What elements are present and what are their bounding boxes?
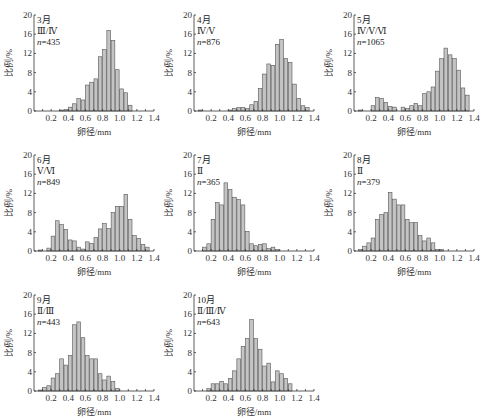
- bar: [263, 74, 267, 111]
- bars: [38, 194, 149, 251]
- bar: [224, 384, 228, 391]
- stage-label: Ⅳ/Ⅴ/Ⅵ: [357, 26, 387, 36]
- bar: [207, 244, 211, 251]
- bar: [120, 89, 124, 111]
- bar: [51, 378, 55, 391]
- bar: [440, 59, 444, 111]
- bar: [111, 40, 115, 111]
- bar: [77, 322, 81, 391]
- x-tick-label: 0.8: [97, 253, 109, 263]
- n-value: =876: [202, 37, 221, 47]
- x-tick-label: 1.0: [114, 393, 126, 403]
- bar: [393, 199, 397, 251]
- bar: [297, 99, 301, 111]
- x-axis-title: 卵径/mm: [77, 126, 112, 137]
- histogram-svg: 0481216200.20.40.60.81.01.21.4卵径/mm比例/%4…: [160, 0, 320, 140]
- histogram-svg: 0481216200.20.40.60.81.01.21.4卵径/mm比例/%7…: [160, 140, 320, 280]
- x-tick-label: 1.4: [468, 113, 480, 123]
- y-tick-label: 4: [28, 87, 33, 97]
- y-tick-label: 8: [28, 68, 33, 78]
- bar: [388, 192, 392, 251]
- bar: [380, 99, 384, 111]
- x-tick-label: 0.6: [80, 393, 92, 403]
- y-tick-label: 8: [28, 208, 33, 218]
- y-tick-label: 4: [348, 87, 353, 97]
- sample-size-label: n=435: [37, 37, 61, 47]
- bars: [38, 322, 119, 391]
- sample-size-label: n=1065: [357, 37, 385, 47]
- bar: [258, 349, 262, 391]
- bar: [90, 359, 94, 391]
- x-axis-title: 卵径/mm: [397, 266, 432, 277]
- x-tick-label: 0.6: [240, 393, 252, 403]
- bar: [133, 236, 137, 251]
- bar: [367, 243, 371, 251]
- bar: [215, 384, 219, 391]
- x-tick-label: 0.8: [257, 113, 269, 123]
- x-tick-label: 0.4: [63, 113, 75, 123]
- x-tick-label: 1.4: [148, 113, 160, 123]
- y-tick-label: 4: [28, 367, 33, 377]
- sample-size-label: n=876: [197, 37, 221, 47]
- bar: [410, 106, 414, 111]
- y-tick-label: 0: [28, 246, 33, 256]
- month-label: 9月: [37, 295, 51, 305]
- month-label: 6月: [37, 155, 51, 165]
- bar: [124, 194, 128, 251]
- y-tick-label: 0: [348, 246, 353, 256]
- x-tick-label: 1.2: [291, 393, 302, 403]
- histogram-svg: 0481216200.20.40.60.81.01.21.4卵径/mm比例/%9…: [0, 280, 160, 420]
- x-axis-title: 卵径/mm: [77, 406, 112, 417]
- bar: [85, 85, 89, 111]
- bar: [388, 107, 392, 111]
- bar: [453, 59, 457, 111]
- histogram-svg: 0481216200.20.40.60.81.01.21.4卵径/mm比例/%1…: [160, 280, 320, 420]
- bar: [220, 205, 224, 251]
- x-tick-label: 0.2: [206, 393, 217, 403]
- month-label: 7月: [197, 155, 211, 165]
- bar: [228, 190, 232, 251]
- bar: [94, 359, 98, 391]
- bar: [115, 70, 119, 111]
- bar: [211, 384, 215, 391]
- bar: [203, 247, 207, 251]
- n-value: =379: [362, 177, 381, 187]
- stage-label: Ⅲ/Ⅳ: [37, 26, 58, 36]
- bar: [128, 219, 132, 251]
- bar: [384, 102, 388, 111]
- chart-panel-october: 0481216200.20.40.60.81.01.21.4卵径/mm比例/%1…: [160, 280, 320, 420]
- y-tick-label: 0: [188, 246, 193, 256]
- sample-size-label: n=443: [37, 317, 61, 327]
- bar: [73, 104, 77, 111]
- x-tick-label: 1.4: [148, 393, 160, 403]
- x-tick-label: 0.2: [366, 113, 377, 123]
- chart-panel-may: 0481216200.20.40.60.81.01.21.4卵径/mm比例/%5…: [320, 0, 480, 140]
- chart-panel-june: 0481216200.20.40.60.81.01.21.4卵径/mm比例/%6…: [0, 140, 160, 280]
- bar: [375, 219, 379, 251]
- bar: [115, 206, 119, 251]
- x-tick-label: 1.2: [451, 113, 462, 123]
- bar: [245, 231, 249, 251]
- sample-size-label: n=379: [357, 177, 381, 187]
- bar: [55, 374, 59, 391]
- bar: [85, 355, 89, 391]
- bar: [275, 371, 279, 391]
- x-tick-label: 1.2: [291, 253, 302, 263]
- bar: [98, 229, 102, 251]
- chart-panel-september: 0481216200.20.40.60.81.01.21.4卵径/mm比例/%9…: [0, 280, 160, 420]
- bar: [85, 242, 89, 251]
- bar: [258, 244, 262, 251]
- y-tick-label: 16: [23, 309, 33, 319]
- bar: [224, 183, 228, 251]
- n-value: =435: [42, 37, 61, 47]
- x-tick-label: 0.8: [417, 253, 429, 263]
- y-tick-label: 12: [183, 328, 192, 338]
- bar: [250, 244, 254, 251]
- bar: [384, 213, 388, 251]
- bar: [68, 107, 72, 111]
- n-value: =443: [42, 317, 61, 327]
- bar: [141, 244, 145, 251]
- bar: [457, 70, 461, 111]
- chart-panel-august: 0481216200.20.40.60.81.01.21.4卵径/mm比例/%8…: [320, 140, 480, 280]
- x-tick-label: 0.4: [63, 393, 75, 403]
